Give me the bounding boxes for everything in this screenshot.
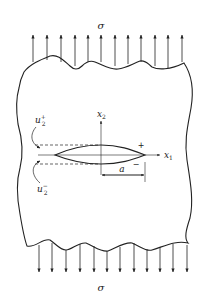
u-minus-label: u−2 bbox=[37, 182, 48, 196]
u-plus-label: u+2 bbox=[35, 113, 46, 127]
half-length-label: a bbox=[119, 164, 124, 174]
upper-face-sign: + bbox=[138, 141, 145, 150]
x2-axis-label: x2 bbox=[97, 109, 106, 120]
stress-label-top: σ bbox=[98, 20, 106, 31]
stress-label-bottom: σ bbox=[98, 282, 106, 293]
crack-shape bbox=[55, 145, 145, 164]
x1-axis-label: x1 bbox=[164, 150, 173, 161]
lower-face-sign: − bbox=[133, 160, 140, 169]
crack-opening-dashes bbox=[35, 145, 100, 164]
tensile-arrows-bottom bbox=[39, 243, 187, 272]
tensile-arrows-top bbox=[33, 35, 182, 68]
crack-diagram: σ σ x1 bbox=[0, 0, 209, 305]
